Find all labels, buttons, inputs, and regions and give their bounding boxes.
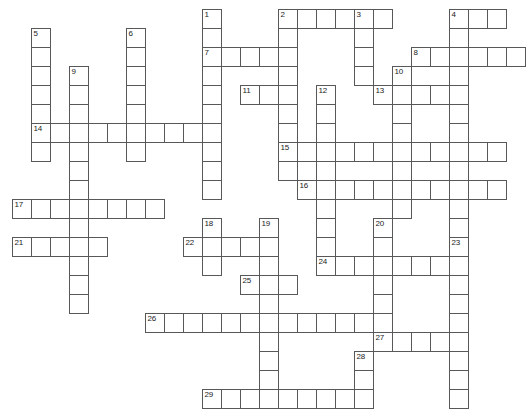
crossword-cell[interactable]	[354, 180, 374, 200]
crossword-cell[interactable]	[69, 199, 89, 219]
crossword-cell[interactable]	[126, 142, 146, 162]
crossword-cell[interactable]	[430, 332, 450, 352]
crossword-cell[interactable]	[449, 28, 469, 48]
crossword-cell[interactable]	[354, 66, 374, 86]
crossword-cell[interactable]	[240, 237, 260, 257]
crossword-cell[interactable]	[316, 218, 336, 238]
crossword-cell[interactable]	[449, 313, 469, 333]
crossword-cell[interactable]	[487, 9, 507, 29]
crossword-cell[interactable]	[240, 389, 260, 409]
crossword-cell[interactable]	[316, 389, 336, 409]
crossword-cell[interactable]	[449, 66, 469, 86]
crossword-cell[interactable]	[392, 123, 412, 143]
crossword-cell[interactable]	[278, 85, 298, 105]
crossword-cell-numbered-21[interactable]: 21	[12, 237, 32, 257]
crossword-cell[interactable]	[373, 142, 393, 162]
crossword-cell-numbered-14[interactable]: 14	[31, 123, 51, 143]
crossword-cell-numbered-24[interactable]: 24	[316, 256, 336, 276]
crossword-cell[interactable]	[506, 47, 526, 67]
crossword-cell[interactable]	[221, 313, 241, 333]
crossword-cell-numbered-12[interactable]: 12	[316, 85, 336, 105]
crossword-cell[interactable]	[354, 256, 374, 276]
crossword-cell[interactable]	[69, 123, 89, 143]
crossword-cell[interactable]	[335, 256, 355, 276]
crossword-cell[interactable]	[468, 47, 488, 67]
crossword-cell[interactable]	[335, 313, 355, 333]
crossword-cell[interactable]	[278, 28, 298, 48]
crossword-cell[interactable]	[449, 47, 469, 67]
crossword-cell[interactable]	[278, 104, 298, 124]
crossword-cell-numbered-11[interactable]: 11	[240, 85, 260, 105]
crossword-cell-numbered-26[interactable]: 26	[145, 313, 165, 333]
crossword-cell[interactable]	[183, 313, 203, 333]
crossword-cell[interactable]	[240, 313, 260, 333]
crossword-cell[interactable]	[126, 199, 146, 219]
crossword-cell[interactable]	[50, 237, 70, 257]
crossword-cell[interactable]	[202, 256, 222, 276]
crossword-cell-numbered-3[interactable]: 3	[354, 9, 374, 29]
crossword-cell[interactable]	[107, 199, 127, 219]
crossword-cell[interactable]	[297, 389, 317, 409]
crossword-cell[interactable]	[449, 218, 469, 238]
crossword-cell[interactable]	[107, 123, 127, 143]
crossword-cell[interactable]	[278, 313, 298, 333]
crossword-cell[interactable]	[31, 237, 51, 257]
crossword-cell[interactable]	[449, 142, 469, 162]
crossword-cell[interactable]	[202, 161, 222, 181]
crossword-cell[interactable]	[449, 332, 469, 352]
crossword-cell[interactable]	[126, 66, 146, 86]
crossword-cell[interactable]	[259, 237, 279, 257]
crossword-cell[interactable]	[392, 199, 412, 219]
crossword-cell[interactable]	[373, 9, 393, 29]
crossword-cell[interactable]	[449, 389, 469, 409]
crossword-cell[interactable]	[335, 389, 355, 409]
crossword-cell[interactable]	[145, 199, 165, 219]
crossword-cell-numbered-10[interactable]: 10	[392, 66, 412, 86]
crossword-cell[interactable]	[392, 332, 412, 352]
crossword-cell-numbered-19[interactable]: 19	[259, 218, 279, 238]
crossword-cell[interactable]	[31, 199, 51, 219]
crossword-cell[interactable]	[373, 275, 393, 295]
crossword-cell[interactable]	[126, 85, 146, 105]
crossword-cell-numbered-13[interactable]: 13	[373, 85, 393, 105]
crossword-cell[interactable]	[354, 389, 374, 409]
crossword-cell[interactable]	[240, 47, 260, 67]
crossword-cell[interactable]	[69, 218, 89, 238]
crossword-cell[interactable]	[354, 47, 374, 67]
crossword-cell[interactable]	[50, 199, 70, 219]
crossword-cell[interactable]	[69, 256, 89, 276]
crossword-cell[interactable]	[316, 123, 336, 143]
crossword-cell[interactable]	[31, 142, 51, 162]
crossword-cell[interactable]	[468, 180, 488, 200]
crossword-cell[interactable]	[202, 66, 222, 86]
crossword-cell-numbered-9[interactable]: 9	[69, 66, 89, 86]
crossword-cell[interactable]	[69, 142, 89, 162]
crossword-cell-numbered-5[interactable]: 5	[31, 28, 51, 48]
crossword-cell[interactable]	[69, 294, 89, 314]
crossword-cell[interactable]	[449, 275, 469, 295]
crossword-cell[interactable]	[31, 85, 51, 105]
crossword-cell[interactable]	[202, 123, 222, 143]
crossword-cell[interactable]	[373, 237, 393, 257]
crossword-cell[interactable]	[392, 161, 412, 181]
crossword-cell-numbered-15[interactable]: 15	[278, 142, 298, 162]
crossword-cell[interactable]	[145, 123, 165, 143]
crossword-cell[interactable]	[430, 85, 450, 105]
crossword-cell-numbered-28[interactable]: 28	[354, 351, 374, 371]
crossword-cell[interactable]	[411, 256, 431, 276]
crossword-cell[interactable]	[449, 180, 469, 200]
crossword-cell[interactable]	[430, 256, 450, 276]
crossword-cell-numbered-29[interactable]: 29	[202, 389, 222, 409]
crossword-cell-numbered-27[interactable]: 27	[373, 332, 393, 352]
crossword-cell[interactable]	[278, 123, 298, 143]
crossword-cell[interactable]	[335, 180, 355, 200]
crossword-cell[interactable]	[126, 47, 146, 67]
crossword-cell-numbered-18[interactable]: 18	[202, 218, 222, 238]
crossword-cell[interactable]	[335, 142, 355, 162]
crossword-cell-numbered-22[interactable]: 22	[183, 237, 203, 257]
crossword-cell[interactable]	[278, 389, 298, 409]
crossword-cell[interactable]	[411, 180, 431, 200]
crossword-cell[interactable]	[392, 104, 412, 124]
crossword-cell[interactable]	[392, 180, 412, 200]
crossword-cell[interactable]	[316, 180, 336, 200]
